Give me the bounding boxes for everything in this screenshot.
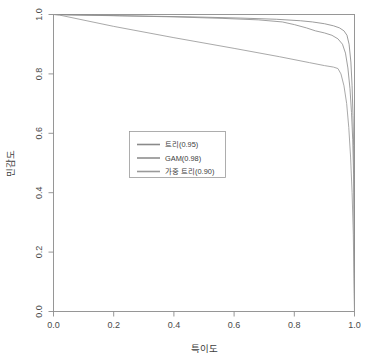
legend-label-1: 트리(0.95): [165, 140, 198, 149]
x-tick-label: 0.2: [107, 320, 120, 330]
y-tick-label: 0.2: [34, 246, 44, 259]
legend-label-3: 가중 트리(0.90): [165, 167, 214, 176]
x-tick-label: 0.6: [228, 320, 241, 330]
y-axis-title: 민감도: [5, 150, 16, 177]
y-tick-label: 0.8: [34, 68, 44, 81]
x-tick-label: 0.8: [288, 320, 301, 330]
legend: 트리(0.95)GAM(0.98)가중 트리(0.90): [130, 132, 226, 178]
x-tick-label: 1.0: [348, 320, 361, 330]
x-axis-ticks: [54, 312, 355, 317]
x-axis-tick-labels: 0.0 0.2 0.4 0.6 0.8 1.0: [47, 320, 361, 330]
x-tick-label: 0.4: [168, 320, 181, 330]
x-axis-title: 특이도: [191, 343, 218, 354]
y-tick-label: 1.0: [34, 8, 44, 21]
legend-label-2: GAM(0.98): [165, 154, 201, 163]
y-axis-ticks: [49, 15, 54, 312]
chart-canvas: 0.0 0.2 0.4 0.6 0.8 1.0 0.0 0.2 0.4 0.6 …: [0, 0, 375, 362]
roc-curve-figure: 0.0 0.2 0.4 0.6 0.8 1.0 0.0 0.2 0.4 0.6 …: [0, 0, 375, 362]
y-tick-label: 0.6: [34, 127, 44, 140]
y-axis-tick-labels: 0.0 0.2 0.4 0.6 0.8 1.0: [34, 8, 44, 318]
x-tick-label: 0.0: [47, 320, 60, 330]
y-tick-label: 0.0: [34, 305, 44, 318]
y-tick-label: 0.4: [34, 186, 44, 199]
